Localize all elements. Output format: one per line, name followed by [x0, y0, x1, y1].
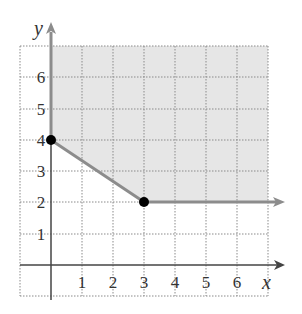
x-tick-label: 3 [140, 273, 149, 292]
x-axis [20, 260, 285, 270]
vertex-0-4 [46, 135, 56, 145]
y-tick-label: 1 [37, 225, 46, 244]
x-tick-label: 6 [233, 273, 242, 292]
y-tick-label: 2 [37, 193, 46, 212]
x-tick-label: 5 [202, 273, 211, 292]
y-tick-label: 4 [37, 131, 46, 150]
feasible-region-graph: y x 1 2 3 4 5 6 1 2 3 4 5 6 [0, 0, 302, 314]
y-tick-label: 6 [37, 68, 46, 87]
x-tick-label: 1 [78, 273, 87, 292]
y-tick-label: 3 [37, 162, 46, 181]
y-axis-label: y [32, 17, 43, 40]
vertex-3-2 [139, 197, 149, 207]
shaded-region [51, 46, 268, 202]
x-axis-label: x [261, 271, 271, 293]
y-tick-label: 5 [37, 100, 46, 119]
x-tick-label: 4 [171, 273, 180, 292]
x-tick-label: 2 [109, 273, 118, 292]
